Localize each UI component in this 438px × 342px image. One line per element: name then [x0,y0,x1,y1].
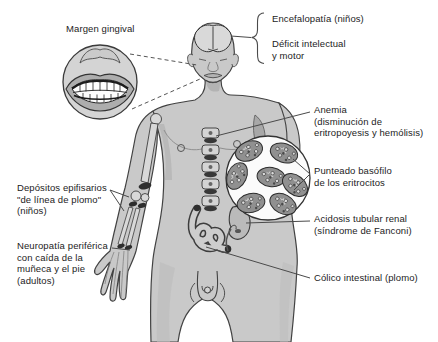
head [188,23,239,82]
label-deficit-intelectual: Déficit intelectual y motor [272,38,346,61]
leader-brain [231,36,251,38]
ear-right [232,54,238,66]
label-encefalopatia: Encefalopatía (niños) [272,13,364,25]
mouth-inset [63,45,137,119]
lead-poisoning-body-diagram: Margen gingival Encefalopatía (niños) Dé… [0,0,438,342]
brace-brain-labels [252,13,265,64]
label-acidosis-tubular: Acidosis tubular renal (síndrome de Fanc… [314,213,412,236]
spine-icon [202,128,219,211]
label-colico-intestinal: Cólico intestinal (plomo) [314,272,418,284]
label-depositos-epifisarios: Depósitos epifisarios "de línea de plomo… [17,182,107,217]
label-neuropatia-periferica: Neuropatía periférica con caída de la mu… [17,240,108,286]
brain-icon [195,25,232,52]
label-margen-gingival: Margen gingival [66,23,135,35]
label-anemia: Anemia (disminución de eritropoyesis y h… [314,104,423,139]
dashed-callout-line-upper [130,54,197,65]
label-punteado-basofilo: Punteado basófilo de los eritrocitos [314,165,392,188]
